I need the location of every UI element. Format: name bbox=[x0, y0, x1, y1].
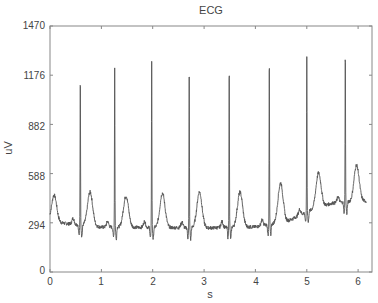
plot-area bbox=[0, 0, 378, 303]
ecg-signal-line bbox=[50, 57, 366, 241]
axes-box bbox=[50, 26, 372, 272]
axis-ticks bbox=[50, 26, 372, 272]
